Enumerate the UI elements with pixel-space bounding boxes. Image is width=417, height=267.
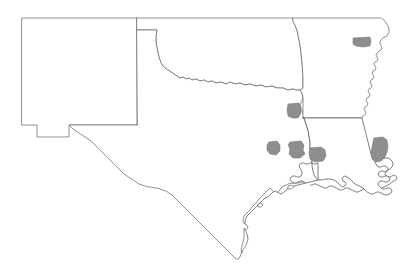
state-new-mexico [22,18,137,137]
map-figure: South Central United States [0,0,417,267]
highlight-region-texas-east-border[interactable] [287,103,301,118]
highlight-region-east-central-texas-east[interactable] [288,141,305,158]
highlight-region-east-central-texas-west[interactable] [267,141,280,155]
south-central-us-map [0,0,417,267]
highlight-region-southwest-louisiana[interactable] [309,147,326,162]
highlight-region-northeast-arkansas[interactable] [353,37,371,47]
